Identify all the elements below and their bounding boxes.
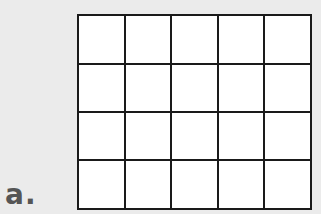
grid-figure xyxy=(77,14,312,210)
grid-row-line xyxy=(79,159,310,161)
grid-row-line xyxy=(79,63,310,65)
grid-row-line xyxy=(79,111,310,113)
figure-label: a. xyxy=(5,181,37,209)
